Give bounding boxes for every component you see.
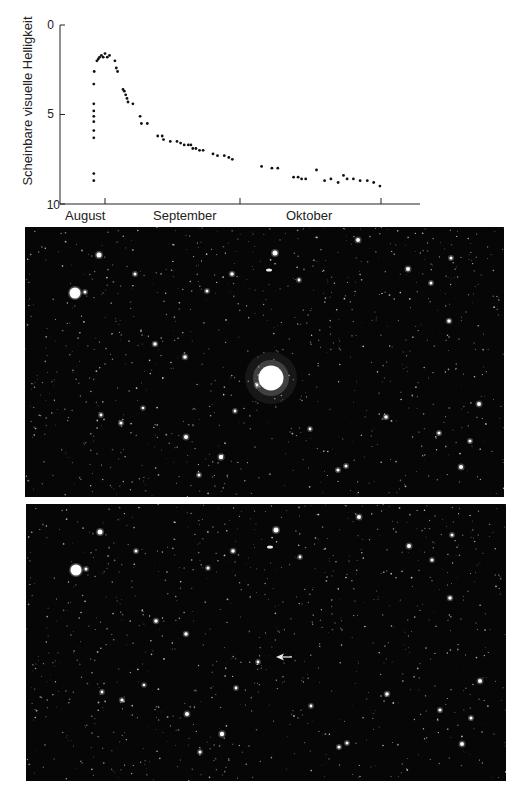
data-point — [140, 122, 143, 125]
star-field-photo-before — [25, 227, 504, 497]
data-point — [132, 102, 135, 105]
y-tick-label-5: 5 — [47, 107, 54, 121]
data-point — [126, 97, 129, 100]
data-point — [187, 144, 190, 147]
data-point — [337, 181, 340, 184]
data-point — [106, 56, 109, 59]
data-point — [212, 153, 215, 156]
data-point — [183, 144, 186, 147]
data-point — [179, 142, 182, 145]
data-point — [114, 59, 117, 62]
data-point — [372, 181, 375, 184]
data-point — [359, 179, 362, 182]
data-point — [315, 169, 318, 172]
data-point — [300, 178, 303, 181]
data-point — [102, 56, 105, 59]
data-point — [330, 178, 333, 181]
chart-axes — [60, 25, 420, 204]
data-point — [169, 140, 172, 143]
x-label-oktober: Oktober — [286, 208, 333, 223]
data-point — [292, 176, 295, 179]
data-point — [92, 120, 95, 123]
data-point — [124, 93, 127, 96]
data-point — [304, 178, 307, 181]
data-point — [191, 147, 194, 150]
data-point — [92, 129, 95, 132]
data-point — [123, 90, 126, 93]
light-curve-svg: Scheinbare visuelle Helligkeit 0 5 10 Au… — [0, 0, 523, 225]
data-point — [92, 136, 95, 139]
star-field-before-svg — [25, 227, 504, 497]
data-point — [92, 172, 95, 175]
data-point — [231, 158, 234, 161]
data-points — [92, 52, 381, 187]
data-point — [176, 140, 179, 143]
data-point — [108, 54, 111, 57]
data-point — [276, 167, 279, 170]
data-point — [195, 147, 198, 150]
y-tick-label-0: 0 — [47, 18, 54, 32]
data-point — [227, 156, 230, 159]
data-point — [116, 70, 119, 73]
data-point — [216, 154, 219, 157]
data-point — [92, 102, 95, 105]
y-axis-label: Scheinbare visuelle Helligkeit — [20, 16, 35, 185]
nova-bright-star — [259, 366, 284, 391]
data-point — [297, 176, 300, 179]
data-point — [323, 179, 326, 182]
data-point — [92, 83, 95, 86]
data-point — [379, 185, 382, 188]
data-point — [202, 149, 205, 152]
data-point — [92, 179, 95, 182]
data-point — [190, 144, 193, 147]
star-field-photo-after — [26, 504, 506, 781]
data-point — [93, 70, 96, 73]
data-point — [271, 167, 274, 170]
data-point — [104, 52, 107, 55]
data-point — [366, 179, 369, 182]
data-point — [260, 165, 263, 168]
data-point — [127, 101, 130, 104]
data-point — [139, 115, 142, 118]
data-point — [156, 135, 159, 138]
data-point — [342, 174, 345, 177]
data-point — [92, 110, 95, 113]
data-point — [223, 154, 226, 157]
star-field-after-svg — [26, 504, 506, 781]
data-point — [146, 122, 149, 125]
y-tick-label-10: 10 — [47, 198, 61, 212]
light-curve-chart: Scheinbare visuelle Helligkeit 0 5 10 Au… — [0, 0, 523, 225]
x-label-september: September — [153, 208, 217, 223]
data-point — [198, 149, 201, 152]
data-point — [92, 115, 95, 118]
data-point — [346, 178, 349, 181]
x-label-august: August — [65, 208, 106, 223]
data-point — [352, 178, 355, 181]
data-point — [115, 67, 118, 70]
data-point — [162, 138, 165, 141]
data-point — [161, 135, 164, 138]
